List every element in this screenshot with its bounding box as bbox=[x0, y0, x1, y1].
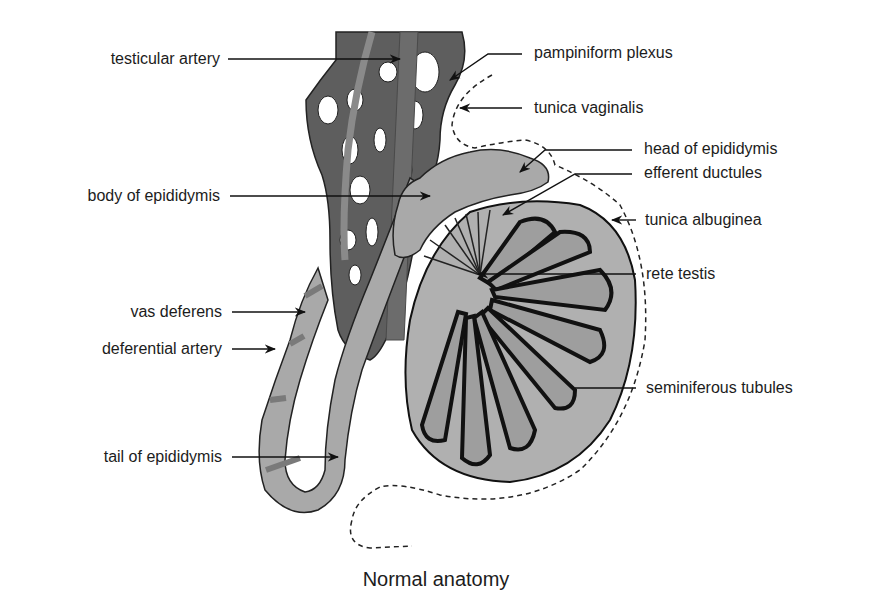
label-testicular-artery: testicular artery bbox=[50, 50, 220, 68]
label-efferent-ductules: efferent ductules bbox=[644, 164, 762, 182]
label-tunica-albuginea: tunica albuginea bbox=[645, 211, 762, 229]
label-tunica-vaginalis: tunica vaginalis bbox=[534, 99, 643, 117]
figure-caption: Normal anatomy bbox=[0, 568, 872, 591]
label-seminiferous-tubules: seminiferous tubules bbox=[646, 379, 793, 397]
testis-shape bbox=[405, 201, 635, 482]
label-vas-deferens: vas deferens bbox=[50, 303, 222, 321]
label-head-of-epididymis: head of epididymis bbox=[644, 140, 777, 158]
testis-illustration bbox=[0, 0, 872, 598]
label-body-of-epididymis: body of epididymis bbox=[30, 187, 220, 205]
label-tail-of-epididymis: tail of epididymis bbox=[40, 448, 222, 466]
anatomy-figure: testicular artery body of epididymis vas… bbox=[0, 0, 872, 598]
label-pampiniform-plexus: pampiniform plexus bbox=[534, 44, 673, 62]
label-rete-testis: rete testis bbox=[646, 265, 715, 283]
label-deferential-artery: deferential artery bbox=[40, 340, 222, 358]
